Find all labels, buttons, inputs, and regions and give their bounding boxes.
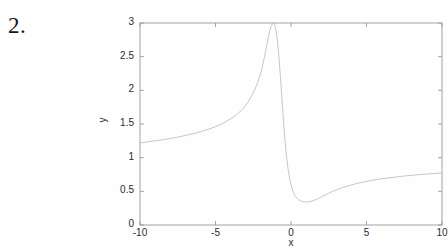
y-tick-label: 2.5 <box>100 51 134 61</box>
x-tick-label: 10 <box>422 228 448 238</box>
x-tick-marks <box>140 23 442 225</box>
axes-frame <box>140 23 442 225</box>
x-tick-label: 5 <box>347 228 387 238</box>
y-tick-label: 3 <box>100 17 134 27</box>
y-tick-label: 0.5 <box>100 185 134 195</box>
x-axis-label: x <box>284 238 298 248</box>
y-tick-label: 1 <box>100 152 134 162</box>
y-tick-marks <box>140 23 442 225</box>
data-curve <box>140 23 442 202</box>
worksheet-page: 2. 00.511.522.53 -10-50510 y x <box>0 0 448 251</box>
y-tick-label: 2 <box>100 84 134 94</box>
plot-axes <box>140 23 442 225</box>
plot-series-group <box>140 23 442 202</box>
y-axis-label: y <box>98 113 108 127</box>
x-tick-label: -10 <box>120 228 160 238</box>
plot-figure: 00.511.522.53 -10-50510 y x <box>0 0 448 251</box>
plot-canvas <box>0 0 448 251</box>
x-tick-label: -5 <box>196 228 236 238</box>
